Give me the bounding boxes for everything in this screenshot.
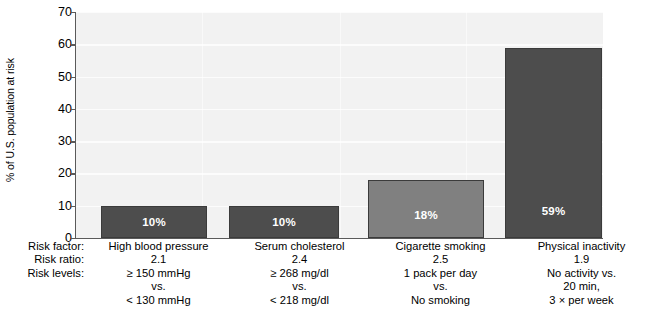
table-cell: Physical inactivity bbox=[511, 240, 652, 253]
y-tick-mark bbox=[71, 12, 76, 13]
table-row: vs.vs.vs.20 min, bbox=[0, 280, 652, 293]
grid-band bbox=[202, 12, 203, 238]
grid-band bbox=[340, 12, 341, 238]
chart-figure: % of U.S. population at risk 01020304050… bbox=[0, 0, 652, 326]
y-tick-mark bbox=[71, 77, 76, 78]
bar-value-label: 59% bbox=[542, 205, 566, 217]
table-cell: No activity vs. bbox=[511, 267, 652, 280]
table-row-cells: vs.vs.vs.20 min, bbox=[88, 280, 652, 293]
table-cell: vs. bbox=[229, 280, 370, 293]
y-tick-label: 40 bbox=[38, 103, 72, 116]
table-row-cells: High blood pressureSerum cholesterolCiga… bbox=[88, 240, 652, 253]
y-tick-mark bbox=[71, 109, 76, 110]
table-cell: ≥ 268 mg/dl bbox=[229, 267, 370, 280]
y-tick-label: 70 bbox=[38, 6, 72, 19]
table-row: Risk factor:High blood pressureSerum cho… bbox=[0, 240, 652, 253]
table-cell: vs. bbox=[88, 280, 229, 293]
bar-4: 59% bbox=[505, 48, 602, 238]
table-cell: 2.5 bbox=[370, 253, 511, 266]
y-tick-label: 20 bbox=[38, 167, 72, 180]
bar-value-label: 18% bbox=[414, 209, 438, 221]
table-cell: < 130 mmHg bbox=[88, 294, 229, 307]
table-cell: 2.1 bbox=[88, 253, 229, 266]
y-tick-mark bbox=[71, 44, 76, 45]
bar-3: 18% bbox=[368, 180, 484, 238]
table-row: Risk ratio:2.12.42.51.9 bbox=[0, 253, 652, 266]
table-row-cells: 2.12.42.51.9 bbox=[88, 253, 652, 266]
y-tick-label: 10 bbox=[38, 199, 72, 212]
table-row-cells: ≥ 150 mmHg≥ 268 mg/dl1 pack per dayNo ac… bbox=[88, 267, 652, 280]
table-cell: 1 pack per day bbox=[370, 267, 511, 280]
table-cell: No smoking bbox=[370, 294, 511, 307]
table-row-label bbox=[0, 294, 88, 307]
y-tick-mark bbox=[71, 173, 76, 174]
y-tick-label: 30 bbox=[38, 135, 72, 148]
table-row-label bbox=[0, 280, 88, 293]
table-row-label: Risk factor: bbox=[0, 240, 88, 253]
bar-value-label: 10% bbox=[272, 216, 296, 228]
table-cell: 1.9 bbox=[511, 253, 652, 266]
table-row: Risk levels:≥ 150 mmHg≥ 268 mg/dl1 pack … bbox=[0, 267, 652, 280]
table-cell: Serum cholesterol bbox=[229, 240, 370, 253]
y-tick-mark bbox=[71, 141, 76, 142]
risk-factor-table: Risk factor:High blood pressureSerum cho… bbox=[0, 240, 652, 307]
table-cell: 3 × per week bbox=[511, 294, 652, 307]
y-axis-tick-labels: 010203040506070 bbox=[38, 8, 72, 238]
y-tick-mark bbox=[71, 206, 76, 207]
plot-area: 10%10%18%59% bbox=[75, 12, 603, 239]
table-cell: Cigarette smoking bbox=[370, 240, 511, 253]
table-row-label: Risk ratio: bbox=[0, 253, 88, 266]
y-tick-label: 60 bbox=[38, 38, 72, 51]
table-row-label: Risk levels: bbox=[0, 267, 88, 280]
table-cell: vs. bbox=[370, 280, 511, 293]
table-row: < 130 mmHg< 218 mg/dlNo smoking3 × per w… bbox=[0, 294, 652, 307]
bar-1: 10% bbox=[101, 206, 207, 238]
table-cell: 20 min, bbox=[511, 280, 652, 293]
table-row-cells: < 130 mmHg< 218 mg/dlNo smoking3 × per w… bbox=[88, 294, 652, 307]
y-axis-title: % of U.S. population at risk bbox=[0, 0, 20, 240]
bar-value-label: 10% bbox=[142, 216, 166, 228]
y-tick-label: 50 bbox=[38, 70, 72, 83]
plot-inner: 10%10%18%59% bbox=[76, 12, 603, 238]
table-cell: 2.4 bbox=[229, 253, 370, 266]
table-cell: ≥ 150 mmHg bbox=[88, 267, 229, 280]
bar-2: 10% bbox=[229, 206, 339, 238]
table-cell: < 218 mg/dl bbox=[229, 294, 370, 307]
table-cell: High blood pressure bbox=[88, 240, 229, 253]
y-axis-title-text: % of U.S. population at risk bbox=[4, 58, 16, 182]
